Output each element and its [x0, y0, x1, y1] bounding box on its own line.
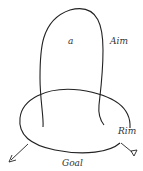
aim-loop: [40, 9, 104, 127]
label-goal: Goal: [62, 158, 83, 168]
goal-arrow-line: [11, 144, 28, 160]
diagram-canvas: a Aim Rim Goal: [0, 0, 143, 171]
label-inner: a: [68, 36, 73, 46]
label-aim: Aim: [109, 36, 128, 46]
start-line: [121, 143, 132, 152]
label-rim: Rim: [117, 126, 136, 136]
rim-loop: [20, 89, 130, 153]
triangle-marker-icon: [131, 150, 137, 156]
